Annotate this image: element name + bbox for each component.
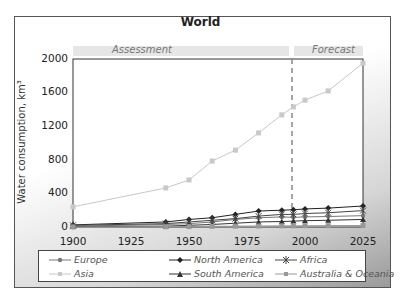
legend-item-australia-oceania: Australia & Oceania bbox=[275, 268, 394, 279]
legend-item-europe: Europe bbox=[49, 254, 108, 265]
data-point-marker bbox=[256, 130, 261, 135]
data-point-marker bbox=[303, 98, 308, 103]
legend: Europe North America Africa Asia South A… bbox=[38, 250, 366, 282]
triangle-marker-icon bbox=[169, 270, 191, 278]
data-point-marker bbox=[291, 104, 296, 109]
data-point-marker bbox=[187, 224, 192, 229]
data-point-marker bbox=[361, 61, 366, 66]
square-marker-icon bbox=[49, 270, 71, 278]
plot-box bbox=[73, 59, 363, 227]
data-point-marker bbox=[210, 224, 215, 229]
data-point-marker bbox=[256, 223, 261, 228]
data-point-marker bbox=[326, 88, 331, 93]
data-point-marker bbox=[303, 223, 308, 228]
legend-item-south-america: South America bbox=[169, 268, 264, 279]
legend-item-asia: Asia bbox=[49, 268, 94, 279]
asterisk-marker-icon bbox=[275, 256, 297, 264]
circle-marker-icon bbox=[49, 256, 71, 264]
legend-item-africa: Africa bbox=[275, 254, 327, 265]
square-marker-icon bbox=[275, 270, 297, 278]
legend-item-north-america: North America bbox=[169, 254, 263, 265]
data-point-marker bbox=[326, 223, 331, 228]
data-point-marker bbox=[361, 223, 366, 228]
data-point-marker bbox=[210, 159, 215, 164]
diamond-marker-icon bbox=[169, 256, 191, 264]
data-point-marker bbox=[291, 223, 296, 228]
data-point-marker bbox=[233, 148, 238, 153]
data-point-marker bbox=[279, 112, 284, 117]
data-point-marker bbox=[233, 224, 238, 229]
data-point-marker bbox=[71, 204, 76, 209]
data-point-marker bbox=[187, 177, 192, 182]
data-point-marker bbox=[163, 224, 168, 229]
data-point-marker bbox=[163, 185, 168, 190]
data-point-marker bbox=[71, 224, 76, 229]
data-point-marker bbox=[279, 223, 284, 228]
